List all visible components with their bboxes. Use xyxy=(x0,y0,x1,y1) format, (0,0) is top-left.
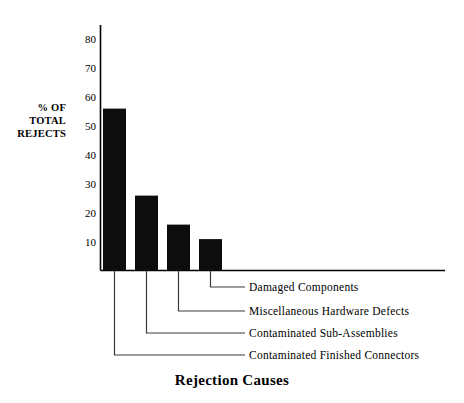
y-tick-50: 50 xyxy=(70,121,96,132)
callout-label-contaminated-sub-assemblies: Contaminated Sub-Assemblies xyxy=(249,327,398,340)
leader-line-contaminated-sub-assemblies xyxy=(147,271,246,333)
y-tick-40: 40 xyxy=(70,150,96,161)
y-axis-title: % OF TOTAL REJECTS xyxy=(4,101,66,140)
bar-contaminated-sub-assemblies xyxy=(135,196,158,271)
y-tick-20: 20 xyxy=(70,208,96,219)
leader-line-contaminated-finished-connectors xyxy=(115,271,246,355)
bar-damaged-components xyxy=(199,239,222,270)
leader-line-damaged-components xyxy=(211,271,246,287)
leader-line-miscellaneous-hardware-defects xyxy=(179,271,246,311)
y-tick-80: 80 xyxy=(70,34,96,45)
callout-label-damaged-components: Damaged Components xyxy=(249,281,359,294)
y-axis-title-line-2: TOTAL xyxy=(4,114,66,127)
y-tick-10: 10 xyxy=(70,237,96,248)
y-tick-30: 30 xyxy=(70,179,96,190)
bar-contaminated-finished-connectors xyxy=(103,109,126,271)
pareto-chart: 80 70 60 50 40 30 20 10 % OF TOTAL REJEC… xyxy=(0,0,464,403)
chart-canvas xyxy=(0,0,464,403)
bar-miscellaneous-hardware-defects xyxy=(167,225,190,271)
callout-label-contaminated-finished-connectors: Contaminated Finished Connectors xyxy=(249,349,419,362)
y-tick-70: 70 xyxy=(70,63,96,74)
y-tick-60: 60 xyxy=(70,92,96,103)
y-axis-title-line-3: REJECTS xyxy=(4,127,66,140)
y-axis-title-line-1: % OF xyxy=(4,101,66,114)
callout-label-miscellaneous-hardware-defects: Miscellaneous Hardware Defects xyxy=(249,305,409,318)
chart-title: Rejection Causes xyxy=(0,371,464,389)
bar-series xyxy=(103,109,222,271)
